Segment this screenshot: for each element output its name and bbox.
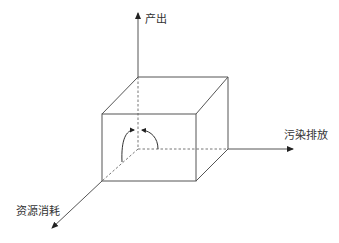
diagonal-axis-label: 资源消耗 — [16, 206, 60, 217]
horizontal-axis-label: 污染排放 — [284, 130, 328, 141]
vertical-axis-label: 产出 — [145, 14, 167, 25]
cube — [102, 77, 228, 181]
rotation-arcs — [122, 130, 158, 162]
hidden-edges — [102, 77, 228, 181]
